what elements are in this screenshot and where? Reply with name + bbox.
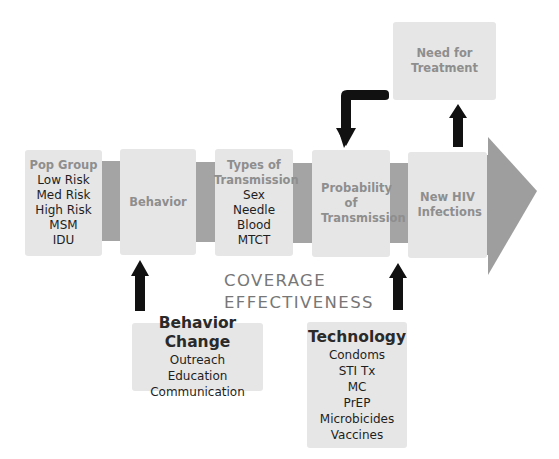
box-item: Condoms: [329, 347, 385, 363]
box-item: Education: [168, 368, 228, 384]
coverage-effectiveness-label: COVERAGE EFFECTIVENESS: [224, 270, 374, 314]
box-item: Microbicides: [320, 411, 394, 427]
behavior-change-box: Behavior Change Outreach Education Commu…: [132, 323, 263, 391]
box-item: STI Tx: [339, 363, 376, 379]
up-arrow-icon: [131, 260, 149, 311]
box-item: MC: [348, 379, 367, 395]
box-item: PrEP: [344, 395, 371, 411]
down-arrow-icon: [336, 90, 389, 148]
box-item: Communication: [150, 384, 245, 400]
box-title: Technology: [308, 328, 406, 347]
technology-box: Technology Condoms STI Tx MC PrEP Microb…: [307, 322, 407, 448]
box-title: Behavior Change: [132, 314, 263, 352]
effectiveness-line: EFFECTIVENESS: [224, 292, 374, 314]
coverage-line: COVERAGE: [224, 270, 374, 292]
box-item: Vaccines: [331, 427, 383, 443]
arrows-layer: [0, 0, 559, 459]
up-arrow-icon: [449, 104, 467, 147]
box-item: Outreach: [170, 352, 225, 368]
up-arrow-icon: [389, 263, 407, 310]
